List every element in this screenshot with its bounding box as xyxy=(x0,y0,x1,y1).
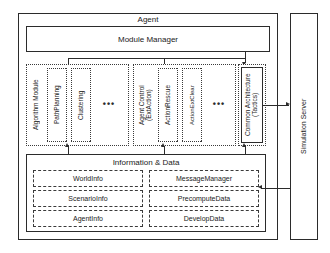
diagram-canvas: Agent Module Manager Algorithm Module Pa… xyxy=(0,0,330,253)
agent-control-ellipsis-text: ••• xyxy=(213,99,225,109)
worldinfo-label: WorldInfo xyxy=(73,175,103,182)
data-link-3 xyxy=(245,146,246,154)
data-messagemanager[interactable]: MessageManager xyxy=(149,170,259,187)
data-link-2 xyxy=(164,146,165,154)
algorithm-module-ellipsis: ••• xyxy=(96,98,122,110)
algorithm-module-label-text: Algorithm Module xyxy=(33,80,40,131)
data-link-2-arrowhead xyxy=(161,143,165,147)
server-out-arrowhead xyxy=(286,102,290,106)
pathplanning-label: PathPlanning xyxy=(54,86,61,125)
server-in-arrowhead xyxy=(258,185,262,189)
data-scenarioinfo[interactable]: ScenarioInfo xyxy=(33,190,143,207)
group-agent-control-label: Agent Control (ExtAction) xyxy=(136,67,155,143)
data-link-3-arrowhead xyxy=(242,143,246,147)
group-algorithm-module-label: Algorithm Module xyxy=(29,67,43,143)
actionextclear-label: ActionExtClear xyxy=(189,85,195,125)
algorithm-module-ellipsis-text: ••• xyxy=(103,99,115,109)
module-clustering[interactable]: Clustering xyxy=(71,68,91,142)
information-data-title-label: Information & Data xyxy=(113,158,180,167)
precomputedata-label: PrecomputeData xyxy=(178,195,231,202)
mm-bus-horizontal xyxy=(68,58,246,59)
simulation-server-label-wrap: Simulation Server xyxy=(290,13,318,240)
module-pathplanning[interactable]: PathPlanning xyxy=(47,68,67,142)
agent-control-label-text: Agent Control (ExtAction) xyxy=(139,85,153,125)
data-agentinfo[interactable]: AgentInfo xyxy=(33,210,143,227)
scenarioinfo-label: ScenarioInfo xyxy=(68,195,107,202)
developdata-label: DevelopData xyxy=(184,215,224,222)
module-actionextclear[interactable]: ActionExtClear xyxy=(182,68,202,142)
data-worldinfo[interactable]: WorldInfo xyxy=(33,170,143,187)
data-precomputedata[interactable]: PrecomputeData xyxy=(149,190,259,207)
data-link-1 xyxy=(68,146,69,154)
information-data-title: Information & Data xyxy=(26,157,266,168)
agent-control-ellipsis: ••• xyxy=(206,98,232,110)
agentinfo-label: AgentInfo xyxy=(73,215,103,222)
data-developdata[interactable]: DevelopData xyxy=(149,210,259,227)
clustering-label: Clustering xyxy=(78,90,85,119)
server-in-line xyxy=(261,188,290,189)
module-manager-label: Module Manager xyxy=(118,35,178,44)
actionrescue-label: ActionRescue xyxy=(165,85,172,125)
agent-title: Agent xyxy=(18,14,278,25)
data-link-1-arrowhead xyxy=(65,143,69,147)
module-actionrescue[interactable]: ActionRescue xyxy=(158,68,178,142)
module-manager-box[interactable]: Module Manager xyxy=(26,26,270,52)
agent-title-label: Agent xyxy=(138,15,159,24)
simulation-server-label: Simulation Server xyxy=(300,99,307,154)
module-common-architecture[interactable]: Common Architecture (Tactics) xyxy=(241,67,263,143)
common-architecture-label: Common Architecture (Tactics) xyxy=(245,74,259,137)
messagemanager-label: MessageManager xyxy=(176,175,232,182)
